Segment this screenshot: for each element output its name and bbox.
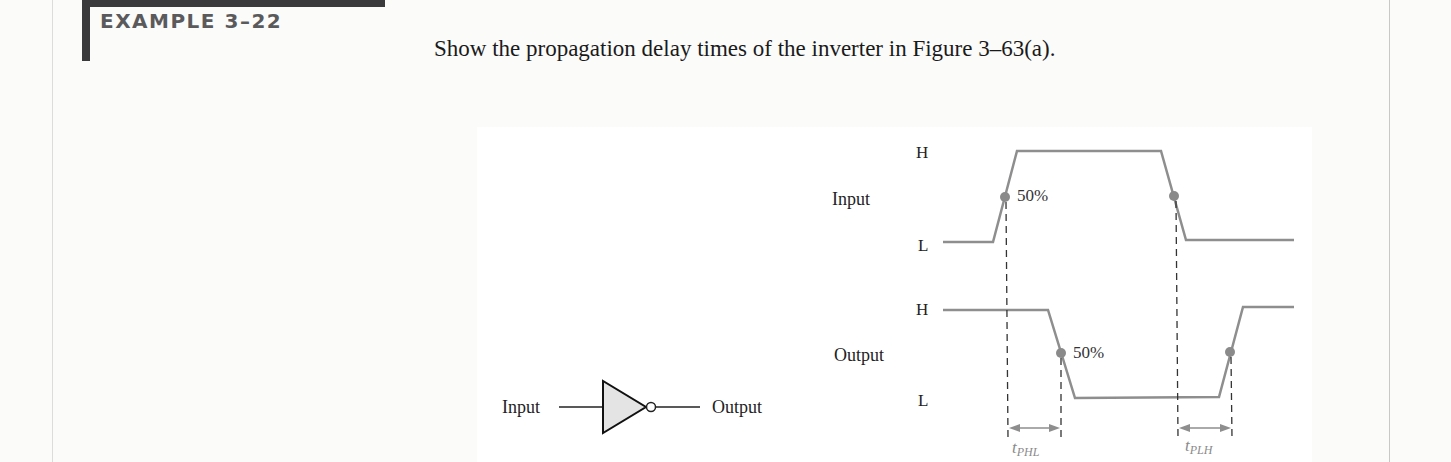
output-low-label: L bbox=[918, 391, 928, 411]
output-rise-50-marker bbox=[1225, 347, 1235, 357]
input-high-label: H bbox=[916, 143, 928, 163]
tplh-arrow bbox=[1179, 424, 1231, 432]
inverter-input-label: Input bbox=[502, 397, 540, 418]
input-50-label: 50% bbox=[1017, 186, 1048, 206]
input-rise-50-marker bbox=[1000, 192, 1010, 202]
output-high-label: H bbox=[916, 300, 928, 320]
timing-input-label: Input bbox=[832, 189, 870, 210]
tplh-label: tPLH bbox=[1185, 436, 1212, 458]
timing-output-label: Output bbox=[834, 345, 884, 366]
tphl-label: tPHL bbox=[1012, 438, 1039, 460]
output-waveform bbox=[943, 307, 1294, 398]
figure-graphics bbox=[0, 0, 1451, 462]
output-fall-50-marker bbox=[1056, 348, 1066, 358]
not-gate-icon bbox=[559, 381, 700, 433]
tplh-sub: PLH bbox=[1190, 443, 1213, 457]
input-low-label: L bbox=[918, 236, 928, 256]
input-waveform bbox=[943, 151, 1294, 242]
reference-dashes bbox=[1006, 201, 1232, 438]
input-fall-50-marker bbox=[1169, 191, 1179, 201]
inverter-output-label: Output bbox=[712, 397, 762, 418]
tphl-arrow bbox=[1009, 424, 1060, 432]
output-50-label: 50% bbox=[1073, 343, 1104, 363]
tphl-sub: PHL bbox=[1017, 445, 1040, 459]
